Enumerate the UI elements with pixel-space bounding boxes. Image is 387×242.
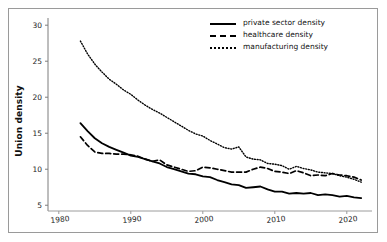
legend-key-dotted xyxy=(210,47,236,57)
y-tick-label-15: 15 xyxy=(20,129,42,138)
legend-label-0: private sector density xyxy=(243,18,325,27)
legend-key-solid xyxy=(210,23,236,33)
y-tick-label-10: 10 xyxy=(20,165,42,174)
series-layer xyxy=(80,41,361,198)
plot-area xyxy=(0,0,387,242)
y-tick-label-25: 25 xyxy=(20,57,42,66)
series-line-healthcare-density xyxy=(80,137,361,180)
legend-label-1: healthcare density xyxy=(243,30,313,39)
series-line-private-sector-density xyxy=(80,123,361,198)
legend-label-2: manufacturing density xyxy=(243,42,328,51)
y-tick-label-30: 30 xyxy=(20,21,42,30)
y-tick-label-5: 5 xyxy=(20,201,42,210)
chart-figure: Union density 51015202530 19801990200020… xyxy=(0,0,387,242)
legend-key-dashed xyxy=(210,35,236,45)
y-tick-label-20: 20 xyxy=(20,93,42,102)
series-line-manufacturing-density xyxy=(80,41,361,182)
